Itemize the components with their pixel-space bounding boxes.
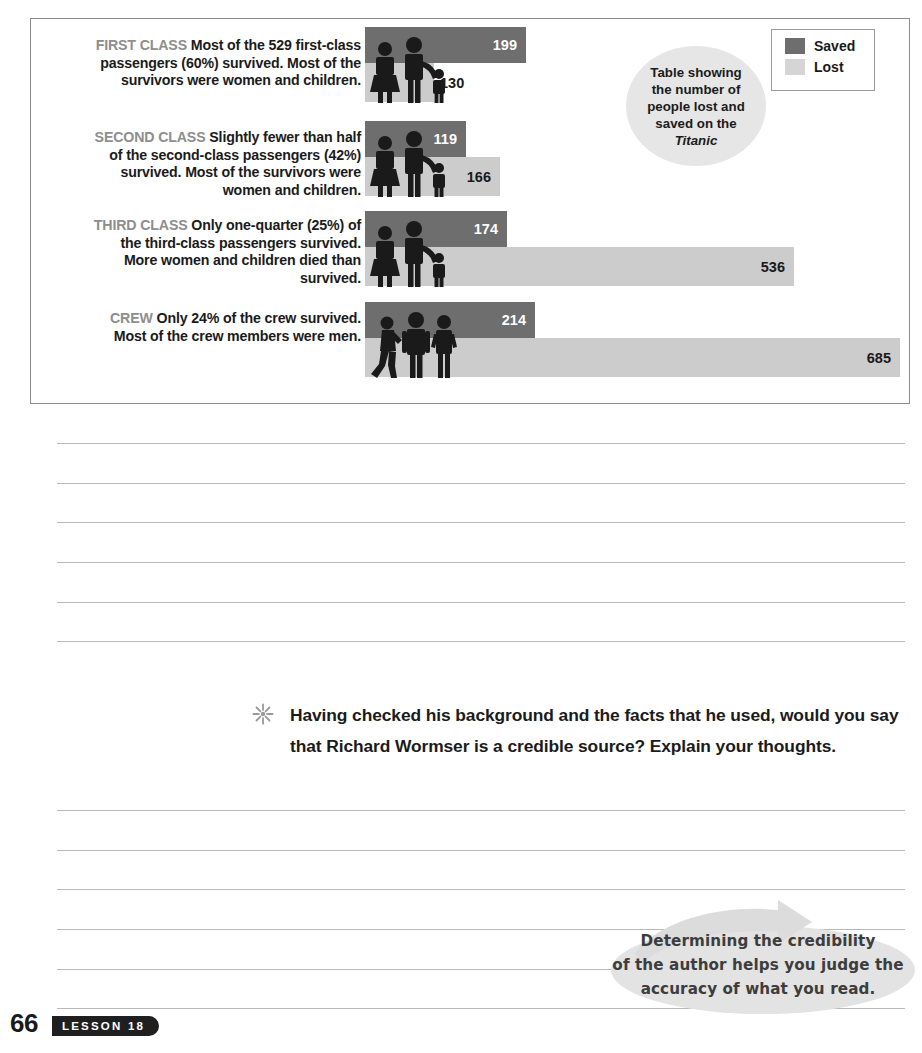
row-caption-second-class: SECOND CLASS Slightly fewer than half of… [93,129,361,199]
class-label-second-class: SECOND CLASS [95,129,206,145]
answer-line [57,483,905,484]
class-label-third-class: THIRD CLASS [94,217,188,233]
bar-value-lost-first-class: 130 [434,75,464,91]
bar-lost-second-class: 166 [365,157,500,196]
bar-saved-first-class: 199 [365,27,526,63]
class-label-first-class: FIRST CLASS [96,37,187,53]
answer-line [57,810,905,811]
tip-text: Determining the credibility of the autho… [612,929,904,1001]
bar-saved-second-class: 119 [365,121,466,157]
tip-callout: Determining the credibility of the autho… [598,898,916,1016]
question-block: Having checked his background and the fa… [252,700,912,762]
bars-area-third-class: 174 536 [365,211,909,303]
chart-row-second-class: SECOND CLASS Slightly fewer than half of… [31,121,909,213]
caption-line-5-titanic: Titanic [675,133,718,148]
answer-line [57,641,905,642]
bar-saved-third-class: 174 [365,211,507,247]
answer-line [57,522,905,523]
row-caption-crew: CREW Only 24% of the crew survived. Most… [93,310,361,345]
chart-legend: Saved Lost [771,29,875,91]
legend-label-lost: Lost [814,59,844,75]
class-label-crew: CREW [110,310,153,326]
bar-lost-third-class: 536 [365,247,794,286]
tip-line-2: of the author helps you judge the [612,956,903,974]
legend-label-saved: Saved [814,38,855,54]
caption-line-3: people lost and [647,99,745,114]
lesson-label: LESSON 18 [62,1020,145,1032]
answer-line [57,602,905,603]
bar-lost-crew: 685 [365,338,900,377]
answer-line [57,850,905,851]
bar-value-lost-third-class: 536 [761,259,794,275]
bar-value-lost-crew: 685 [867,350,900,366]
row-caption-first-class: FIRST CLASS Most of the 529 first-class … [93,37,361,90]
chart-caption-blob: Table showing the number of people lost … [626,46,766,166]
legend-item-lost: Lost [785,59,874,75]
chart-caption-text: Table showing the number of people lost … [641,64,751,149]
bar-value-saved-third-class: 174 [474,221,507,237]
caption-line-4: saved on the [655,116,736,131]
answer-line [57,443,905,444]
chart-row-crew: CREW Only 24% of the crew survived. Most… [31,302,909,394]
answer-line [57,562,905,563]
bar-value-lost-second-class: 166 [467,169,500,185]
asterisk-star-icon [252,703,274,725]
tip-line-3: accuracy of what you read. [641,980,876,998]
bar-value-saved-second-class: 119 [434,131,466,147]
tip-line-1: Determining the credibility [641,932,876,950]
answer-line [57,889,905,890]
legend-swatch-lost-icon [785,59,805,75]
caption-line-1: Table showing [650,65,741,80]
legend-swatch-saved-icon [785,38,805,54]
row-caption-third-class: THIRD CLASS Only one-quarter (25%) of th… [93,217,361,287]
bar-lost-first-class: 130 [365,63,434,102]
legend-item-saved: Saved [785,38,874,54]
bar-saved-crew: 214 [365,302,535,338]
page-number: 66 [10,1008,38,1039]
infographic-panel: FIRST CLASS Most of the 529 first-class … [30,18,910,404]
lesson-banner: LESSON 18 [52,1016,159,1036]
chart-row-third-class: THIRD CLASS Only one-quarter (25%) of th… [31,211,909,303]
question-text: Having checked his background and the fa… [290,700,912,762]
bar-value-saved-crew: 214 [502,312,535,328]
bars-area-crew: 214 685 [365,302,909,394]
bar-value-saved-first-class: 199 [493,37,526,53]
caption-line-2: the number of [652,82,741,97]
